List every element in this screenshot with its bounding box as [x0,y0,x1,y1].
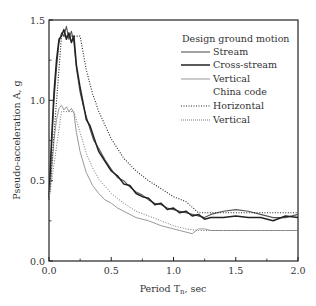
x-tick-label: 1.0 [166,265,181,276]
x-tick-label: 0.5 [104,265,119,276]
y-tick-label: 0.0 [30,256,45,267]
response-spectrum-chart: 0.00.51.01.52.00.00.51.01.5 Pseudo-accel… [0,0,316,306]
legend-label-horizontal-code: Horizontal [213,100,264,111]
x-axis-label: Period Tn, sec [140,283,207,296]
plot-border [49,20,298,261]
y-axis-title: Pseudo-acceleration A, g [11,80,22,199]
x-tick-label: 0.0 [41,265,56,276]
y-tick-label: 0.5 [30,175,45,186]
axis-ticks: 0.00.51.01.52.00.00.51.01.5 [30,15,306,277]
legend-group-china-title: China code [213,86,267,97]
plot-frame [49,20,298,261]
legend-group-design-title: Design ground motion [182,33,289,44]
legend-label-vertical-design: Vertical [212,73,250,84]
y-tick-label: 1.0 [30,95,45,106]
legend-label-vertical-code: Vertical [212,114,250,125]
x-tick-label: 2.0 [290,265,305,276]
legend-label-stream: Stream [213,46,248,57]
legend: Design ground motion Stream Cross-stream… [181,33,289,125]
y-axis-label: Pseudo-acceleration A, g [11,80,22,199]
series-layer [49,26,298,233]
x-axis-title: Period Tn, sec [140,283,207,296]
legend-label-cross-stream: Cross-stream [213,59,277,70]
y-tick-label: 1.5 [30,15,45,26]
series-stream-design [49,26,298,217]
x-tick-label: 1.5 [228,265,243,276]
